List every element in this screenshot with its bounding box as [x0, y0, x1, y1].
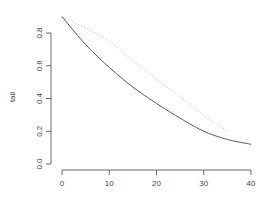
y-tick-label: 0.8 — [35, 27, 44, 39]
chart-canvas: 0.00.20.40.60.8 010203040 tail — [0, 0, 269, 198]
x-tick-label: 40 — [247, 179, 256, 188]
y-tick-label: 0.0 — [35, 158, 44, 170]
solid-line-series — [62, 17, 251, 145]
y-tick-label: 0.6 — [35, 60, 44, 72]
dotted-line-series — [62, 17, 227, 132]
x-tick-label: 10 — [105, 179, 114, 188]
x-tick-label: 30 — [199, 179, 208, 188]
y-axis-title: tail — [8, 92, 17, 102]
x-tick-label: 0 — [60, 179, 65, 188]
y-tick-label: 0.2 — [35, 125, 44, 137]
x-axis-ticks: 010203040 — [60, 170, 256, 188]
x-tick-label: 20 — [152, 179, 161, 188]
y-tick-label: 0.4 — [35, 92, 44, 104]
y-axis-ticks: 0.00.20.40.60.8 — [35, 27, 51, 170]
